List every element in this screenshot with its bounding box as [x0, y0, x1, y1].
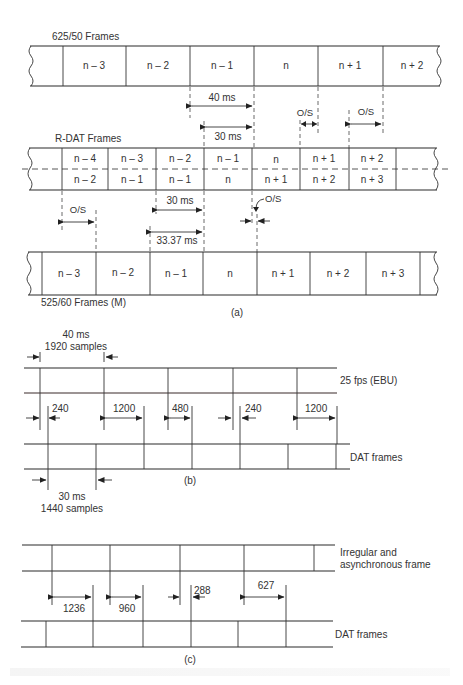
cell: n – 3 — [58, 268, 81, 279]
cell: n + 2 — [401, 60, 424, 71]
lower-cell: n — [225, 174, 231, 185]
os-label: O/S — [70, 204, 86, 215]
dims-lower: O/S 30 ms 33.37 ms O/S — [62, 191, 281, 252]
panel-a-label: (a) — [231, 307, 243, 318]
row-irregular-label-1: Irregular and — [340, 547, 397, 558]
panel-b: 40 ms 1920 samples 25 fps (EBU) 240 1200… — [24, 329, 402, 514]
upper-cell: n – 2 — [169, 153, 192, 164]
faded-caption — [10, 668, 450, 676]
dim-33-37ms: 33.37 ms — [156, 235, 197, 246]
cell: n – 1 — [165, 268, 188, 279]
lower-cell: n + 1 — [265, 174, 288, 185]
panel-c-label: (c) — [184, 654, 196, 665]
dim-30ms-top: 30 ms — [214, 131, 241, 142]
panel-b-label: (b) — [184, 475, 196, 486]
offset: 480 — [172, 403, 189, 414]
cell: n – 2 — [147, 60, 170, 71]
row-525-60: n – 3 n – 2 n – 1 n n + 1 n + 2 n + 3 52… — [27, 252, 438, 308]
lower-cell: n + 2 — [313, 174, 336, 185]
cell: n + 2 — [327, 268, 350, 279]
offset: 1200 — [113, 403, 136, 414]
offset: 1200 — [305, 403, 328, 414]
offset: 288 — [194, 585, 211, 596]
row-irregular-label-2: asynchronous frame — [340, 559, 431, 570]
upper-cell: n – 3 — [121, 153, 144, 164]
top-dim-line1: 40 ms — [62, 329, 89, 340]
dims-upper: 40 ms 30 ms O/S O/S — [190, 87, 383, 148]
dim-40ms: 40 ms — [208, 92, 235, 103]
break-right-icon — [437, 46, 441, 86]
row-dat-label: DAT frames — [335, 629, 387, 640]
break-left-icon — [29, 46, 33, 86]
cell: n + 1 — [339, 60, 362, 71]
os-label: O/S — [265, 193, 281, 204]
cell: n + 1 — [272, 268, 295, 279]
bottom-dim-line1: 30 ms — [58, 491, 85, 502]
upper-cell: n + 1 — [313, 153, 336, 164]
lower-cell: n – 2 — [74, 174, 97, 185]
top-dim-line2: 1920 samples — [45, 341, 107, 352]
os-label: O/S — [297, 107, 313, 118]
panel-c: Irregular and asynchronous frame 1236 96… — [21, 545, 431, 665]
frame-timing-diagram: 625/50 Frames n – 3 n – 2 n – 1 n n + 1 … — [0, 0, 463, 685]
cell: n + 3 — [382, 268, 405, 279]
upper-cell: n + 2 — [361, 153, 384, 164]
upper-cell: n – 4 — [74, 153, 97, 164]
upper-cell: n — [273, 154, 279, 165]
row-dat-label: DAT frames — [350, 452, 402, 463]
offset: 960 — [119, 603, 136, 614]
lower-cell: n – 1 — [169, 174, 192, 185]
lower-cell: n – 1 — [121, 174, 144, 185]
cell: n — [227, 268, 233, 279]
offset: 240 — [245, 403, 262, 414]
dim-30ms-bottom: 30 ms — [166, 195, 193, 206]
break-left-icon — [28, 148, 32, 190]
row-625-title: 625/50 Frames — [52, 31, 119, 42]
row-rdat-title: R-DAT Frames — [55, 133, 121, 144]
offset: 240 — [52, 403, 69, 414]
cell: n – 3 — [83, 60, 106, 71]
upper-cell: n – 1 — [217, 153, 240, 164]
cell: n — [283, 60, 289, 71]
offset: 627 — [258, 580, 275, 591]
row-25fps-label: 25 fps (EBU) — [340, 375, 397, 386]
cell: n – 2 — [112, 267, 135, 278]
cell: n – 1 — [211, 60, 234, 71]
row-525-title: 525/60 Frames (M) — [41, 297, 126, 308]
lower-cell: n + 3 — [361, 174, 384, 185]
row-625-50: 625/50 Frames n – 3 n – 2 n – 1 n n + 1 … — [29, 31, 441, 86]
offset: 1236 — [63, 603, 86, 614]
os-label: O/S — [358, 106, 374, 117]
bottom-dim-line2: 1440 samples — [41, 503, 103, 514]
break-right-icon — [434, 252, 438, 295]
break-left-icon — [27, 252, 31, 295]
